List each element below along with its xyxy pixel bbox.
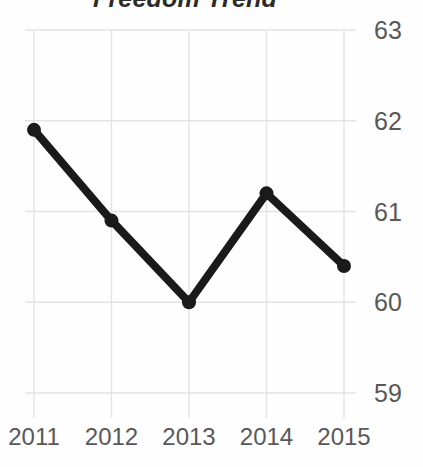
- data-point-marker: [260, 186, 274, 200]
- plot-area: [0, 0, 423, 420]
- line-chart-svg: [0, 0, 423, 420]
- y-axis-tick-label: 61: [374, 197, 418, 226]
- y-axis-tick-label: 60: [374, 288, 418, 317]
- y-axis-tick-label: 62: [374, 106, 418, 135]
- x-axis-tick-label: 2013: [144, 423, 234, 451]
- data-point-marker: [182, 295, 196, 309]
- x-axis-tick-label: 2014: [222, 423, 312, 451]
- data-point-marker: [337, 259, 351, 273]
- y-axis-tick-label: 63: [374, 16, 418, 45]
- x-axis-tick-label: 2012: [67, 423, 157, 451]
- data-point-marker: [105, 214, 119, 228]
- y-axis-tick-label: 59: [374, 379, 418, 408]
- chart-container: Freedom Trend 6362616059 201120122013201…: [0, 0, 423, 467]
- data-point-marker: [27, 123, 41, 137]
- x-axis-tick-label: 2015: [299, 423, 389, 451]
- horizontal-gridlines: [25, 30, 356, 393]
